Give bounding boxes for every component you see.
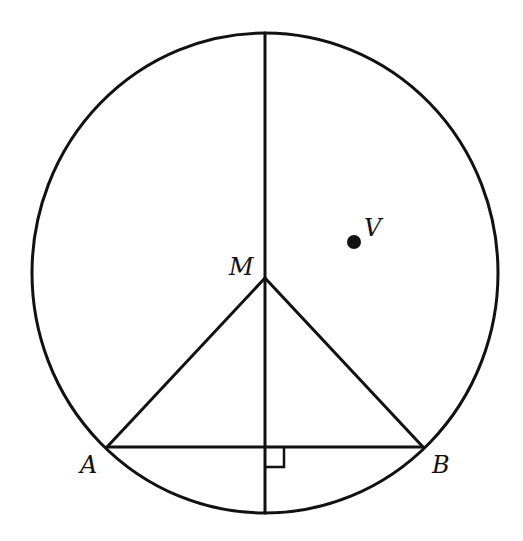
- label-V: V: [364, 214, 384, 242]
- label-B: B: [431, 451, 450, 479]
- point-V: [347, 235, 361, 249]
- label-A: A: [78, 451, 97, 479]
- right-angle-marker: [265, 447, 284, 467]
- segment-MA: [107, 278, 265, 447]
- segment-MB: [265, 278, 423, 447]
- geometry-diagram: M V A B: [0, 0, 523, 541]
- label-M: M: [228, 253, 255, 281]
